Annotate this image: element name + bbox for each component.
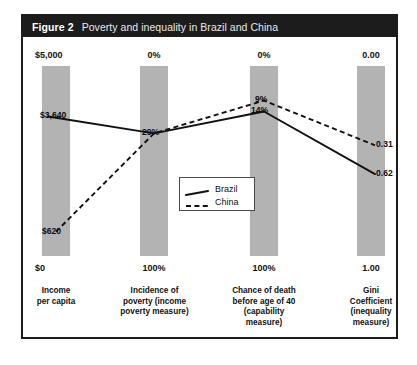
figure-title-bar: Figure 2 Poverty and inequality in Brazi…: [23, 16, 396, 37]
point-label-china-gini: 0.31: [376, 139, 393, 149]
legend-label-brazil: Brazil: [215, 184, 238, 194]
legend: Brazil China: [179, 177, 255, 211]
point-label-brazil-gini: 0.62: [376, 168, 393, 178]
brazil-line: [48, 112, 375, 175]
point-label-shared-poverty: 29%: [142, 127, 159, 137]
figure-number: Figure 2: [32, 21, 74, 33]
point-label-brazil-death: 14%: [251, 105, 268, 115]
figure-frame: Figure 2 Poverty and inequality in Brazi…: [21, 14, 398, 339]
legend-row-china: China: [185, 195, 254, 208]
legend-label-china: China: [215, 197, 239, 207]
point-label-china-income: $620: [42, 226, 61, 236]
plot-area: $5,000 0% 0% 0.00 $0 100% 100% 1.00 Inco…: [23, 37, 396, 337]
point-label-brazil-income: $3,640: [40, 110, 66, 120]
figure-title: Poverty and inequality in Brazil and Chi…: [82, 21, 278, 33]
legend-row-brazil: Brazil: [185, 182, 254, 195]
point-label-china-death: 9%: [255, 94, 267, 104]
solid-line-icon: [185, 184, 209, 194]
figure-container: Figure 2 Poverty and inequality in Brazi…: [0, 0, 417, 365]
dashed-line-icon: [185, 197, 209, 207]
